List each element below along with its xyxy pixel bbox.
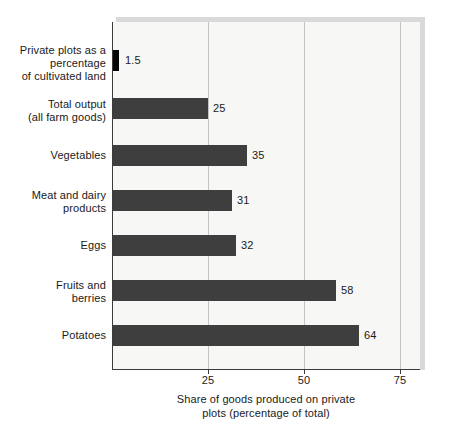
bar-1	[113, 98, 208, 119]
bar-value-2: 35	[252, 149, 265, 161]
category-label-0: Private plots as a percentage of cultiva…	[0, 44, 106, 83]
x-axis-line	[112, 369, 420, 370]
category-label-2: Vegetables	[0, 149, 106, 162]
category-label-6: Potatoes	[0, 329, 106, 342]
bar-row: Total output (all farm goods) 25	[0, 98, 450, 119]
bar-2	[113, 145, 247, 166]
bar-value-5: 58	[341, 284, 354, 296]
bar-row: Meat and dairy products 31	[0, 190, 450, 211]
bar-4	[113, 235, 236, 256]
bar-value-1: 25	[213, 102, 226, 114]
bar-row: Potatoes 64	[0, 325, 450, 346]
bar-row: Eggs 32	[0, 235, 450, 256]
bar-row: Vegetables 35	[0, 145, 450, 166]
bar-3	[113, 190, 232, 211]
bar-value-4: 32	[241, 239, 254, 251]
category-label-4: Eggs	[0, 239, 106, 252]
category-label-3: Meat and dairy products	[0, 189, 106, 215]
bar-5	[113, 280, 336, 301]
category-label-1: Total output (all farm goods)	[0, 98, 106, 124]
x-axis-title: Share of goods produced on private plots…	[112, 392, 420, 420]
bar-0	[113, 50, 119, 71]
bar-value-6: 64	[364, 329, 377, 341]
x-tick-label-2: 75	[380, 374, 420, 386]
bar-row: Private plots as a percentage of cultiva…	[0, 50, 450, 71]
bar-row: Fruits and berries 58	[0, 280, 450, 301]
x-tick-label-1: 50	[284, 374, 324, 386]
category-label-5: Fruits and berries	[0, 279, 106, 305]
x-tick-label-0: 25	[188, 374, 228, 386]
bar-6	[113, 325, 359, 346]
bar-chart: 25 50 75 Private plots as a percentage o…	[0, 0, 450, 428]
bar-value-3: 31	[237, 194, 250, 206]
bar-value-0: 1.5	[125, 54, 141, 66]
